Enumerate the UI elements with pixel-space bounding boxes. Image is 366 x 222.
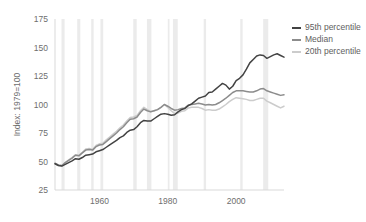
x-tick-label: 1960 <box>90 196 109 206</box>
y-tick-label: 125 <box>34 71 48 81</box>
legend-item-label: Median <box>305 34 333 45</box>
recession-band <box>240 19 242 190</box>
recession-band <box>168 19 170 190</box>
recession-band <box>77 19 80 190</box>
chart-legend: 95th percentileMedian20th percentile <box>292 22 364 58</box>
x-tick-label: 1980 <box>158 196 177 206</box>
recession-band <box>133 19 136 190</box>
recession-band <box>263 19 268 190</box>
y-tick-label: 100 <box>34 100 48 110</box>
y-axis-ticks: 255075100125150175 <box>34 14 48 195</box>
y-axis-title: Index: 1979=100 <box>12 72 22 136</box>
legend-item-p95[interactable]: 95th percentile <box>292 22 364 33</box>
chart-container: 255075100125150175196019802000Index: 197… <box>0 0 366 222</box>
y-tick-label: 150 <box>34 43 48 53</box>
legend-swatch-icon <box>292 27 301 29</box>
recession-band <box>173 19 178 190</box>
y-tick-label: 50 <box>39 157 49 167</box>
legend-item-label: 20th percentile <box>305 46 361 57</box>
y-tick-label: 175 <box>34 14 48 24</box>
legend-item-p20[interactable]: 20th percentile <box>292 46 364 57</box>
x-tick-label: 2000 <box>227 196 246 206</box>
legend-item-label: 95th percentile <box>305 22 361 33</box>
x-axis-ticks: 196019802000 <box>90 196 246 206</box>
recession-band <box>100 19 103 190</box>
y-tick-label: 25 <box>39 185 49 195</box>
y-tick-label: 75 <box>39 128 49 138</box>
legend-swatch-icon <box>292 51 301 53</box>
recession-band <box>147 19 151 190</box>
legend-swatch-icon <box>292 39 301 41</box>
recession-band <box>91 19 93 190</box>
legend-item-median[interactable]: Median <box>292 34 364 45</box>
